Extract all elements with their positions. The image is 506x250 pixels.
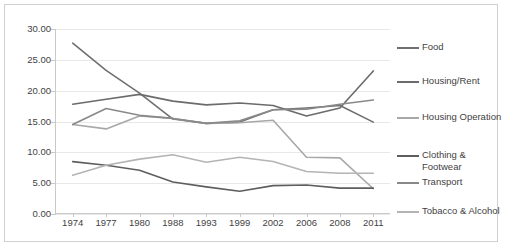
y-axis-tick-label: 20.00	[5, 86, 51, 95]
legend-swatch-icon	[397, 47, 419, 49]
legend-swatch-icon	[397, 182, 419, 184]
legend-item-label: Housing/Rent	[422, 75, 480, 87]
x-axis-tick-label: 2011	[355, 217, 391, 228]
y-axis-tick-label: 5.00	[5, 178, 51, 187]
x-axis-tick-label: 1977	[88, 217, 124, 228]
x-axis-tick-label: 1980	[122, 217, 158, 228]
x-axis-tick-label: 1988	[155, 217, 191, 228]
y-axis-tick-label: 0.00	[5, 209, 51, 218]
legend-swatch-icon	[397, 81, 419, 83]
legend-swatch-icon	[397, 211, 419, 213]
legend-swatch-icon	[397, 155, 419, 157]
legend-item-label: Clothing & Footwear	[422, 149, 502, 172]
legend-item-label: Food	[422, 41, 444, 53]
y-axis-tick-label: 25.00	[5, 55, 51, 64]
x-axis-tick-label: 1974	[55, 217, 91, 228]
legend-item[interactable]: Clothing & Footwear	[397, 149, 502, 172]
x-axis-tick-label: 2006	[289, 217, 325, 228]
x-axis-tick-label: 1993	[188, 217, 224, 228]
plot-area	[56, 29, 390, 214]
x-axis-tick-label: 2002	[255, 217, 291, 228]
legend-item-label: Tobacco & Alcohol	[422, 205, 500, 217]
legend-item[interactable]: Transport	[397, 176, 462, 188]
legend-item-label: Transport	[422, 176, 462, 188]
legend-item[interactable]: Tobacco & Alcohol	[397, 205, 500, 217]
series-lines-group	[56, 29, 390, 214]
legend-item[interactable]: Food	[397, 41, 444, 53]
legend-item[interactable]: Housing/Rent	[397, 75, 480, 87]
x-axis-tick-label: 2008	[322, 217, 358, 228]
y-axis-tick-label: 10.00	[5, 147, 51, 156]
x-axis-tick-label: 1999	[222, 217, 258, 228]
legend-item[interactable]: Housing Operation	[397, 111, 501, 123]
y-axis-tick-mark	[51, 214, 56, 215]
y-axis-tick-label: 15.00	[5, 117, 51, 126]
series-line	[73, 162, 374, 192]
y-axis-tick-label: 30.00	[5, 24, 51, 33]
series-line	[73, 116, 374, 189]
legend-item-label: Housing Operation	[422, 111, 501, 123]
legend-swatch-icon	[397, 117, 419, 119]
chart-container: 0.005.0010.0015.0020.0025.0030.00 197419…	[4, 4, 498, 242]
